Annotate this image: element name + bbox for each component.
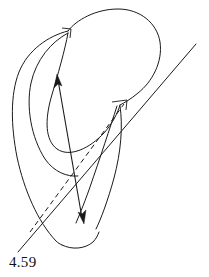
figure-caption: 4.59	[9, 254, 36, 270]
geometry-diagram-canvas	[0, 0, 209, 277]
left-outer-curve	[12, 31, 68, 245]
double-headed-arrow-shaft	[58, 80, 82, 218]
right-inner-curve	[76, 106, 117, 223]
figure-container: 4.59	[0, 0, 209, 277]
arrow-head-bottom-icon	[78, 210, 86, 224]
arrow-head-top-icon	[54, 74, 62, 88]
dashed-axis-line	[30, 104, 124, 232]
straight-generator-line	[18, 44, 196, 252]
inner-funnel-curve	[47, 33, 120, 152]
bottom-curve	[62, 232, 99, 248]
outer-oval-outline	[68, 9, 160, 105]
